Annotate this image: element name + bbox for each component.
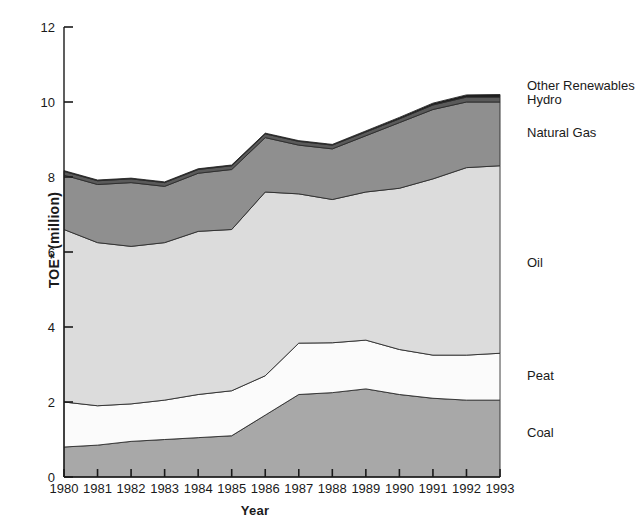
x-tick-label: 1991 bbox=[418, 481, 447, 496]
x-tick-label: 1980 bbox=[50, 481, 79, 496]
stacked-area-chart: 024681012 198019811982198319841985198619… bbox=[0, 0, 635, 532]
y-tick-label: 2 bbox=[48, 395, 55, 410]
x-tick-label: 1982 bbox=[117, 481, 146, 496]
x-tick-label: 1992 bbox=[452, 481, 481, 496]
x-tick-label: 1983 bbox=[150, 481, 179, 496]
x-tick-label: 1984 bbox=[184, 481, 213, 496]
x-tick-label: 1981 bbox=[83, 481, 112, 496]
x-tick-label: 1989 bbox=[351, 481, 380, 496]
legend-group: Other RenewablesHydroNatural GasOilPeatC… bbox=[527, 78, 635, 440]
legend-label-peat: Peat bbox=[527, 368, 554, 383]
x-tick-label: 1986 bbox=[251, 481, 280, 496]
x-tick-label: 1990 bbox=[385, 481, 414, 496]
y-axis-title: TOE* (million) bbox=[46, 180, 62, 300]
legend-label-other-renewables: Other Renewables bbox=[527, 78, 635, 93]
y-tick-label: 4 bbox=[48, 320, 55, 335]
x-tick-label: 1985 bbox=[217, 481, 246, 496]
x-tick-label: 1988 bbox=[318, 481, 347, 496]
x-tick-label: 1993 bbox=[486, 481, 515, 496]
legend-label-natural-gas: Natural Gas bbox=[527, 125, 597, 140]
x-axis-title: Year bbox=[0, 503, 510, 518]
chart-container: 024681012 198019811982198319841985198619… bbox=[0, 0, 635, 532]
y-tick-label: 12 bbox=[41, 20, 55, 35]
legend-label-coal: Coal bbox=[527, 425, 554, 440]
legend-label-oil: Oil bbox=[527, 255, 543, 270]
legend-label-hydro: Hydro bbox=[527, 92, 562, 107]
x-tick-label: 1987 bbox=[284, 481, 313, 496]
area-series-group bbox=[64, 95, 500, 478]
y-tick-label: 10 bbox=[41, 95, 55, 110]
